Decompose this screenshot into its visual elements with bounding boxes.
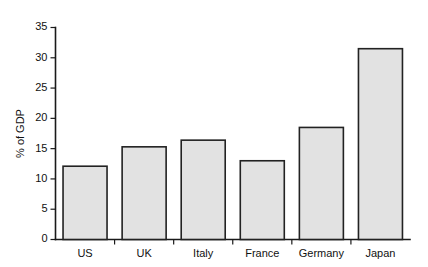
x-axis-tick-label: France (245, 247, 279, 259)
bar (299, 127, 343, 239)
x-axis-tick-label: Germany (299, 247, 345, 259)
y-axis-tick-label: 15 (35, 142, 47, 154)
bar (240, 161, 284, 240)
y-axis-tick-label: 5 (41, 202, 47, 214)
bar (122, 147, 166, 240)
y-axis-tick-label: 0 (41, 232, 47, 244)
bar (181, 140, 225, 239)
x-axis-tick-label: Italy (193, 247, 214, 259)
y-axis-tick-label: 10 (35, 172, 47, 184)
y-axis-title-label: % of GDP (14, 109, 26, 158)
y-axis-tick-label: 20 (35, 111, 47, 123)
bar (358, 49, 402, 240)
y-axis-tick-label: 35 (35, 20, 47, 32)
bar (63, 166, 107, 239)
y-axis-title: % of GDP (14, 109, 26, 158)
y-axis-tick-label: 25 (35, 81, 47, 93)
y-axis-tick-label: 30 (35, 51, 47, 63)
x-axis-tick-label: US (77, 247, 92, 259)
chart-canvas: 05101520253035 USUKItalyFranceGermanyJap… (0, 0, 428, 267)
bar-chart-figure: 05101520253035 USUKItalyFranceGermanyJap… (0, 0, 428, 267)
x-axis-tick-label: UK (136, 247, 152, 259)
x-axis-tick-label: Japan (365, 247, 395, 259)
